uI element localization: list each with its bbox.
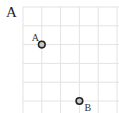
point-label-b: B [84,103,91,113]
point-marker-a [39,41,46,48]
point-label-a: A [32,33,39,43]
grid-diagram [0,0,119,113]
point-marker-b [76,98,83,105]
